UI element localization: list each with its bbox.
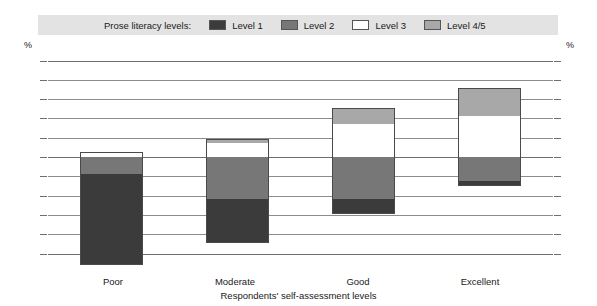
bar-segment-poor-level-1 (80, 174, 143, 265)
bar-cap-top-good (332, 108, 395, 109)
y-tick-dash-left-0 (40, 61, 47, 62)
y-tick-dash-left-2 (40, 99, 47, 100)
legend-entry-level-1: Level 1 (209, 20, 263, 31)
y-tick-dash-right-3 (554, 118, 561, 119)
y-tick-dash-right-1 (554, 80, 561, 81)
legend-swatch-level-1 (209, 20, 226, 30)
y-tick-dash-right-9 (554, 234, 561, 235)
x-tick-label-moderate: Moderate (180, 276, 290, 287)
bar-segment-good-level-2 (332, 157, 395, 199)
y-tick-dash-right-4 (554, 138, 561, 139)
chart-legend: Prose literacy levels: Level 1 Level 2 L… (38, 15, 558, 35)
x-tick-label-excellent: Excellent (425, 276, 535, 287)
bar-group-poor (80, 60, 143, 266)
bar-segment-good-level-4-5 (332, 108, 395, 124)
y-axis-unit-right: % (566, 40, 574, 50)
y-tick-dash-left-10 (40, 254, 47, 255)
bar-segment-poor-level-2 (80, 157, 143, 174)
bar-cap-bottom-poor (80, 264, 143, 265)
bar-segment-excellent-level-2 (458, 157, 521, 181)
y-tick-dash-left-3 (40, 118, 47, 119)
x-axis-title: Respondents' self-assessment levels (0, 290, 597, 301)
bar-cap-bottom-moderate (206, 242, 269, 243)
y-tick-dash-left-5 (40, 157, 47, 158)
y-tick-dash-right-6 (554, 176, 561, 177)
bar-cap-top-excellent (458, 88, 521, 89)
y-tick-dash-right-8 (554, 215, 561, 216)
bar-cap-bottom-excellent (458, 185, 521, 186)
y-tick-dash-left-8 (40, 215, 47, 216)
bar-cap-top-moderate (206, 139, 269, 140)
y-tick-dash-right-7 (554, 196, 561, 197)
bar-group-moderate (206, 60, 269, 266)
legend-entry-level-45: Level 4/5 (424, 20, 486, 31)
y-tick-dash-right-5 (554, 157, 561, 158)
y-tick-dash-left-9 (40, 234, 47, 235)
y-tick-dash-right-2 (554, 99, 561, 100)
prose-literacy-chart: Prose literacy levels: Level 1 Level 2 L… (0, 0, 597, 306)
legend-swatch-level-45 (424, 20, 441, 30)
x-tick-label-good: Good (303, 276, 413, 287)
bar-segment-excellent-level-3 (458, 116, 521, 157)
bar-segment-good-level-3 (332, 124, 395, 157)
legend-swatch-level-3 (352, 20, 369, 30)
bar-cap-bottom-good (332, 213, 395, 214)
legend-entry-level-2: Level 2 (281, 20, 335, 31)
y-tick-dash-left-1 (40, 80, 47, 81)
legend-label-level-45: Level 4/5 (447, 20, 486, 31)
x-tick-label-poor: Poor (58, 276, 168, 287)
legend-label-level-1: Level 1 (232, 20, 263, 31)
bar-segment-moderate-level-3 (206, 143, 269, 157)
legend-entry-level-3: Level 3 (352, 20, 406, 31)
y-tick-dash-left-7 (40, 196, 47, 197)
legend-label-level-2: Level 2 (304, 20, 335, 31)
bar-group-good (332, 60, 395, 266)
legend-label-level-3: Level 3 (375, 20, 406, 31)
y-tick-dash-left-6 (40, 176, 47, 177)
bar-segment-moderate-level-1 (206, 199, 269, 242)
bar-cap-top-poor (80, 152, 143, 153)
bar-segment-moderate-level-2 (206, 157, 269, 199)
y-axis-unit-left: % (24, 40, 32, 50)
y-tick-dash-right-0 (554, 61, 561, 62)
bar-segment-good-level-1 (332, 199, 395, 213)
plot-area: 1001008080606040402020002020404060608080… (48, 60, 553, 266)
bar-segment-excellent-level-4-5 (458, 88, 521, 117)
y-tick-dash-left-4 (40, 138, 47, 139)
y-tick-dash-right-10 (554, 254, 561, 255)
bar-group-excellent (458, 60, 521, 266)
legend-title: Prose literacy levels: (104, 20, 191, 31)
legend-swatch-level-2 (281, 20, 298, 30)
